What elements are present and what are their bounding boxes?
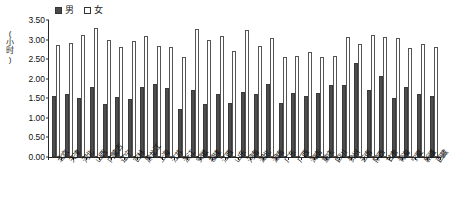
x-axis-labels: 北京天津河北山西内蒙古辽宁吉林黑龙江上海江苏浙江安徽福建江西山东河南湖北湖南广东… (48, 160, 440, 206)
bar-female (408, 48, 412, 157)
bar-group (327, 20, 340, 157)
bar-group (88, 20, 101, 157)
bar-group (201, 20, 214, 157)
bar-group (226, 20, 239, 157)
bar-group (314, 20, 327, 157)
bar-female (232, 51, 236, 157)
bar-female (144, 36, 148, 157)
bar-group (100, 20, 113, 157)
legend-item-male: 男 (55, 6, 74, 15)
bar-group (63, 20, 76, 157)
bar-group (214, 20, 227, 157)
bar-female (220, 36, 224, 157)
bar-female (371, 35, 375, 157)
bar-female (107, 40, 111, 157)
bar-group (302, 20, 315, 157)
bar-female (383, 37, 387, 157)
bar-group (377, 20, 390, 157)
bar-group (352, 20, 365, 157)
bar-female (207, 40, 211, 157)
bar-female (358, 44, 362, 157)
bar-group (339, 20, 352, 157)
bar-group (427, 20, 440, 157)
bar-group (276, 20, 289, 157)
bar-group (151, 20, 164, 157)
legend-label-male: 男 (65, 6, 74, 15)
bar-group (264, 20, 277, 157)
bar-female (333, 56, 337, 157)
bar-group (163, 20, 176, 157)
bar-female (434, 47, 438, 157)
bar-female (94, 28, 98, 157)
bar-female (308, 52, 312, 157)
y-axis-unit-char: ) (2, 56, 18, 65)
bar-female (245, 30, 249, 157)
legend-swatch-female-icon (84, 7, 91, 14)
bar-female (320, 57, 324, 157)
bar-female (270, 38, 274, 157)
bar-group (251, 20, 264, 157)
bar-group (239, 20, 252, 157)
bar-female (69, 43, 73, 157)
bar-female (182, 57, 186, 157)
bar-female (295, 56, 299, 157)
bar-female (346, 37, 350, 157)
bar-group (125, 20, 138, 157)
chart-legend: 男 女 (55, 3, 103, 17)
bar-female (283, 57, 287, 157)
bar-female (81, 35, 85, 157)
bar-group (415, 20, 428, 157)
bar-group (113, 20, 126, 157)
bar-group (75, 20, 88, 157)
plot-area: 0.000.501.001.502.002.503.003.50 (48, 20, 441, 158)
bar-female (169, 47, 173, 157)
y-axis-unit-label: (小时) (2, 30, 18, 64)
bar-group (138, 20, 151, 157)
bar-female (132, 41, 136, 157)
bar-female (195, 29, 199, 157)
bar-group (390, 20, 403, 157)
legend-item-female: 女 (84, 6, 103, 15)
bar-female (396, 38, 400, 157)
bar-female (119, 47, 123, 157)
bar-group (402, 20, 415, 157)
bar-female (56, 45, 60, 157)
legend-swatch-male-icon (55, 7, 62, 14)
bar-female (421, 44, 425, 158)
bar-group (176, 20, 189, 157)
bar-female (258, 46, 262, 157)
bar-groups (49, 20, 441, 157)
bar-group (50, 20, 63, 157)
bar-group (364, 20, 377, 157)
bar-group (289, 20, 302, 157)
bar-group (188, 20, 201, 157)
legend-label-female: 女 (94, 6, 103, 15)
bar-female (157, 46, 161, 157)
